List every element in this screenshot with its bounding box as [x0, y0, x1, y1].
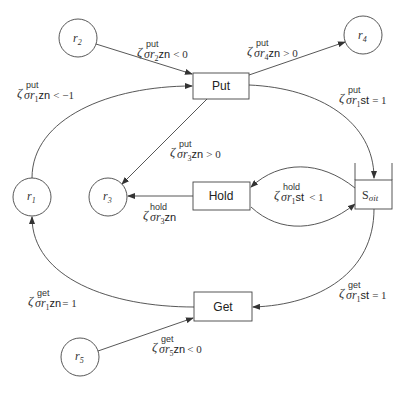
svg-text:σr5zn< 0: σr5zn< 0	[159, 342, 202, 358]
svg-text:ζ: ζ	[152, 339, 158, 354]
edge-label-put-r3: ζ put σr3zn> 0	[170, 139, 221, 163]
svg-text:ζ: ζ	[17, 85, 23, 100]
edge-label-put-queue: ζ put σr1st= 1	[339, 85, 387, 109]
svg-text:ζ: ζ	[339, 285, 345, 300]
edge-label-r5-get: ζ get σr5zn< 0	[152, 334, 202, 358]
edge-label-put-r4: ζ put σr4zn> 0	[247, 38, 298, 62]
svg-text:Get: Get	[213, 300, 233, 314]
svg-text:σr1zn< −1: σr1zn< −1	[24, 88, 74, 104]
svg-text:ζ: ζ	[339, 90, 345, 105]
svg-text:σr2zn< 0: σr2zn< 0	[144, 47, 188, 63]
svg-text:ζ: ζ	[143, 207, 149, 222]
place-r1: r1	[13, 178, 51, 216]
edge-label-r1-put: ζ put σr1zn< −1	[17, 80, 74, 104]
edge-queue-hold	[251, 167, 355, 188]
svg-text:ζ: ζ	[28, 293, 34, 308]
svg-text:Hold: Hold	[209, 189, 234, 203]
edge-label-hold-r3: ζ hold σr3zn	[143, 202, 176, 226]
edge-label-r2-put: ζ put σr2zn< 0	[137, 39, 188, 63]
svg-text:ζ: ζ	[274, 187, 280, 202]
svg-text:σr3zn> 0: σr3zn> 0	[177, 147, 221, 163]
svg-text:σr1st= 1: σr1st= 1	[346, 288, 387, 304]
transition-put: Put	[193, 73, 249, 99]
edge-label-queue-hold: ζ hold σr1st< 1	[274, 182, 324, 206]
svg-text:σr1zn= 1: σr1zn= 1	[35, 296, 77, 312]
edge-get-r1	[32, 217, 194, 307]
edge-hold-queue	[251, 204, 355, 226]
transition-get: Get	[194, 292, 252, 321]
transition-hold: Hold	[193, 182, 250, 210]
svg-text:ζ: ζ	[170, 144, 176, 159]
place-r5: r5	[61, 338, 99, 376]
svg-text:σr1st= 1: σr1st= 1	[346, 93, 387, 109]
svg-text:ζ: ζ	[137, 44, 143, 59]
place-r4: r4	[344, 16, 382, 54]
place-r2: r2	[59, 19, 97, 57]
svg-text:σr3zn: σr3zn	[150, 210, 176, 226]
place-r3: r3	[89, 178, 127, 216]
edge-put-r3	[122, 99, 207, 184]
svg-text:σr1st< 1: σr1st< 1	[281, 190, 324, 206]
svg-text:σr4zn> 0: σr4zn> 0	[254, 46, 298, 62]
edge-label-get-r1: ζ get σr1zn= 1	[28, 288, 77, 312]
svg-text:ζ: ζ	[247, 43, 253, 58]
edge-label-queue-get: ζ get σr1st= 1	[339, 280, 387, 304]
petri-net-diagram: r2 r4 r1 r3 r5 Put Hold Get Sσit ζ put	[0, 0, 409, 393]
svg-text:Put: Put	[212, 79, 231, 93]
